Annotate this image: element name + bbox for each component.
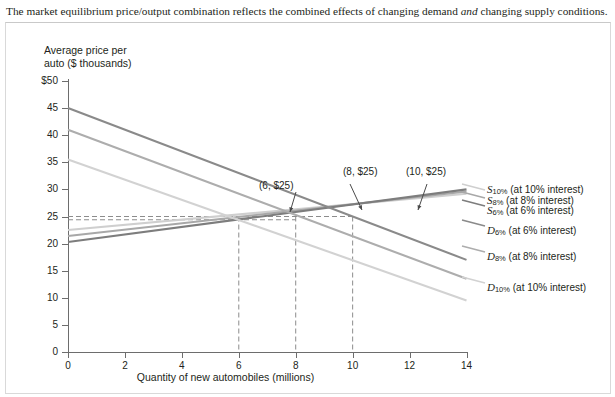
- legend-connector: [462, 277, 485, 283]
- legend-note: (at 6% interest): [506, 225, 577, 236]
- figure-root: The market equilibrium price/output comb…: [0, 0, 615, 397]
- legend-item-d10: D10% (at 10% interest): [487, 281, 586, 294]
- legend-subscript: 6%: [493, 208, 504, 217]
- legend-note: (at 10% interest): [510, 282, 586, 293]
- equilibrium-point-label: (8, $25): [343, 166, 377, 177]
- equilibrium-point-label: (6, $25): [259, 180, 293, 191]
- legend-note: (at 8% interest): [506, 251, 577, 262]
- legend-subscript: 8%: [495, 254, 506, 263]
- legend-subscript: 10%: [495, 285, 510, 294]
- legend-symbol: D: [487, 224, 495, 236]
- series-line-s6: [68, 189, 467, 242]
- series-line-d8: [68, 130, 467, 279]
- legend-connector: [462, 246, 485, 252]
- legend-symbol: D: [487, 281, 495, 293]
- legend-note: (at 6% interest): [503, 205, 574, 216]
- legend-connector: [462, 192, 485, 198]
- legend-item-s6: S6% (at 6% interest): [487, 204, 574, 217]
- legend-item-d8: D8% (at 8% interest): [487, 250, 576, 263]
- legend-symbol: D: [487, 250, 495, 262]
- legend-connector: [462, 200, 485, 206]
- annotation-arrowhead: [418, 205, 422, 210]
- equilibrium-point-label: (10, $25): [406, 166, 446, 177]
- legend-connector: [462, 220, 485, 226]
- legend-subscript: 6%: [495, 228, 506, 237]
- legend-item-d6: D6% (at 6% interest): [487, 224, 576, 237]
